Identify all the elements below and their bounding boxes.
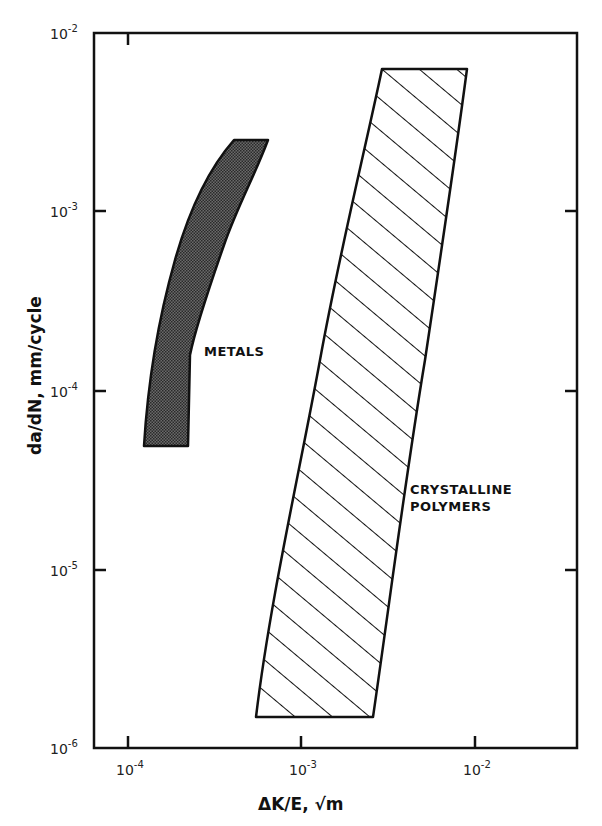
x-tick-label: 10-4 — [116, 759, 144, 778]
x-tick-label: 10-3 — [289, 759, 317, 778]
y-ticks-left — [94, 211, 106, 570]
crack-growth-chart: 10-2 10-3 10-4 10-5 10-6 10-4 10-3 10-2 … — [0, 0, 602, 826]
metals-band — [144, 140, 268, 446]
polymers-label-line1: CRYSTALLINE — [410, 482, 512, 497]
y-tick-label: 10-4 — [50, 381, 78, 400]
y-tick-label: 10-6 — [50, 738, 78, 757]
metals-label: METALS — [204, 344, 264, 359]
y-tick-label: 10-2 — [50, 23, 78, 42]
x-tick-label: 10-2 — [463, 759, 491, 778]
polymers-band — [240, 60, 480, 730]
y-tick-label: 10-5 — [50, 560, 78, 579]
x-tick-labels: 10-4 10-3 10-2 — [116, 759, 491, 778]
y-tick-labels: 10-2 10-3 10-4 10-5 10-6 — [50, 23, 78, 757]
y-tick-label: 10-3 — [50, 201, 78, 220]
x-axis-title: ΔK/E, √m — [258, 794, 344, 814]
y-ticks-right — [565, 211, 577, 570]
y-axis-title: da/dN, mm/cycle — [25, 296, 45, 455]
polymers-label-line2: POLYMERS — [410, 499, 491, 514]
